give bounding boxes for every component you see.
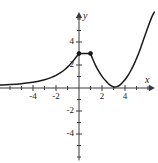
y-axis-label: y (83, 11, 87, 21)
right-endpoint-dot (89, 52, 93, 56)
x-tick-label: 2 (92, 92, 112, 101)
y-tick-label: -2 (55, 106, 74, 115)
graph-figure: x y -4-22442-2-4 (0, 0, 158, 163)
y-tick-label: 4 (55, 37, 74, 46)
curve-left-branch (0, 54, 79, 86)
x-axis-label: x (145, 75, 149, 85)
x-tick-label: -2 (46, 92, 66, 101)
x-tick-label: -4 (23, 92, 43, 101)
curve-group (0, 12, 154, 87)
y-tick-label: 2 (55, 60, 74, 69)
left-endpoint-dot (77, 52, 81, 56)
x-tick-label: 4 (115, 92, 135, 101)
coordinate-plot (0, 0, 158, 163)
y-tick-label: -4 (55, 129, 74, 138)
axes-group (0, 12, 155, 160)
